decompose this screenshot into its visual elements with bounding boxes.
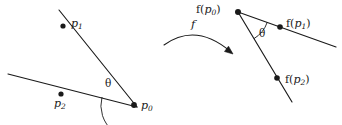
label-p2: p2 (54, 98, 66, 110)
label-p0: p0 (141, 100, 153, 112)
point-p0-dot (131, 102, 137, 108)
map-arrow-group (164, 35, 233, 54)
point-fp2-dot (274, 75, 280, 81)
point-fp0-dot (235, 9, 241, 15)
label-fp1: f(p1) (286, 18, 310, 30)
label-theta-left: θ (105, 78, 111, 89)
label-p1: p1 (71, 18, 83, 30)
line-through-fp2 (238, 12, 292, 102)
point-fp1-dot (277, 24, 283, 30)
map-arrow-curve (164, 35, 231, 52)
label-map-f: f (191, 19, 195, 31)
line-through-p2 (8, 74, 137, 107)
point-p1-dot (60, 23, 65, 28)
angle-arc-theta-left (101, 97, 113, 125)
label-fp2: f(p2) (285, 74, 309, 86)
point-p2-dot (58, 91, 63, 96)
label-fp0: f(p0) (196, 4, 220, 16)
label-theta-right: θ (259, 28, 265, 39)
conformal-map-figure: p1 p2 p0 θ f f(p0) f(p1) f(p2) θ (0, 0, 342, 125)
